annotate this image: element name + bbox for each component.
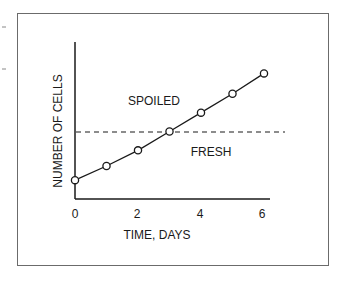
- data-point-marker: [166, 128, 173, 135]
- region-label-spoiled: SPOILED: [128, 94, 180, 108]
- data-point-marker: [103, 162, 110, 169]
- x-tick-label: 2: [134, 207, 141, 221]
- region-label-fresh: FRESH: [191, 145, 232, 159]
- x-tick-label: 4: [197, 207, 204, 221]
- data-point-marker: [197, 109, 204, 116]
- line-chart: 0 2 4 6 TIME, DAYS NUMBER OF CELLS SPOIL…: [0, 0, 343, 283]
- y-axis-label: NUMBER OF CELLS: [51, 74, 65, 187]
- x-axis-label: TIME, DAYS: [123, 228, 190, 242]
- x-tick-label: 0: [72, 207, 79, 221]
- data-point-marker: [134, 147, 141, 154]
- data-point-marker: [229, 90, 236, 97]
- data-point-marker: [71, 177, 78, 184]
- x-tick-label: 6: [259, 207, 266, 221]
- data-point-marker: [260, 70, 267, 77]
- data-series: [71, 70, 267, 184]
